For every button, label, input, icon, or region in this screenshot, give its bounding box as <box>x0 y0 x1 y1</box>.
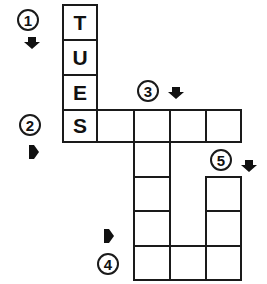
crossword-cell[interactable] <box>205 210 242 247</box>
arrow-right-icon <box>100 227 118 245</box>
crossword-cell[interactable] <box>133 245 171 281</box>
crossword-cell[interactable] <box>133 210 171 247</box>
clue-number-3: 3 <box>137 80 159 102</box>
crossword-cell[interactable]: E <box>62 74 98 111</box>
clue-number-5: 5 <box>210 149 232 171</box>
crossword-cell[interactable] <box>133 109 171 143</box>
crossword-cell[interactable]: T <box>62 4 98 41</box>
crossword-cell[interactable]: U <box>62 39 98 76</box>
arrow-down-icon <box>23 34 41 52</box>
arrow-down-icon <box>240 157 258 175</box>
clue-number-4: 4 <box>97 253 119 275</box>
arrow-down-icon <box>167 84 185 102</box>
crossword-cell[interactable] <box>96 109 135 143</box>
crossword-cell[interactable]: S <box>62 109 98 143</box>
crossword-cell[interactable] <box>205 176 242 212</box>
crossword-cell[interactable] <box>205 109 242 143</box>
clue-number-2: 2 <box>19 114 41 136</box>
crossword-cell[interactable] <box>169 245 207 281</box>
clue-number-1: 1 <box>17 9 39 31</box>
crossword-cell[interactable] <box>205 245 242 281</box>
crossword-cell[interactable] <box>133 141 171 178</box>
arrow-right-icon <box>25 143 43 161</box>
crossword-cell[interactable] <box>133 176 171 212</box>
crossword-cell[interactable] <box>169 109 207 143</box>
